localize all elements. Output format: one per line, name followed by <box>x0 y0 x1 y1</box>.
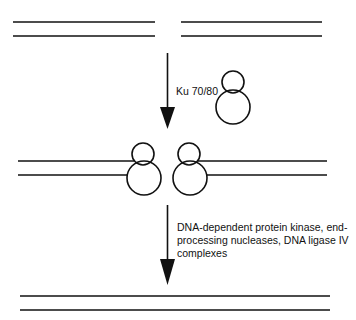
ku-label: Ku 70/80 <box>176 85 218 98</box>
arrowhead-icon <box>160 107 175 129</box>
dna-end-right-with-ku <box>173 143 327 195</box>
complexes-label: DNA-dependent protein kinase, end-proces… <box>177 221 355 260</box>
broken-dna-right <box>181 22 322 36</box>
rejoined-dna <box>20 296 330 310</box>
dna-end-left-with-ku <box>18 143 161 195</box>
ku-heterodimer-free <box>216 71 250 124</box>
broken-dna-left <box>13 22 155 36</box>
nhej-diagram <box>0 0 356 320</box>
arrowhead-icon <box>160 259 175 285</box>
